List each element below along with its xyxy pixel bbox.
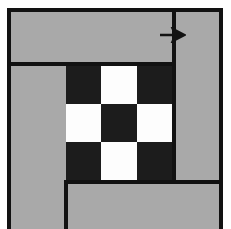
checkerboard-cell-r1-c0 [66,104,101,142]
checkerboard [66,66,172,180]
checkerboard-cell-r0-c2 [137,66,172,104]
main-vertical-rule [172,8,176,184]
checkerboard-cell-r0-c0 [66,66,101,104]
checkerboard-cell-r2-c0 [66,142,101,180]
figure-root [0,0,231,229]
checkerboard-cell-r1-c1 [101,104,136,142]
lower-horizontal-rule [64,180,223,184]
checkerboard-cell-r2-c1 [101,142,136,180]
checkerboard-cell-r1-c2 [137,104,172,142]
checkerboard-cell-r2-c2 [137,142,172,180]
checkerboard-cell-r0-c1 [101,66,136,104]
lower-vertical-rule [64,180,68,229]
